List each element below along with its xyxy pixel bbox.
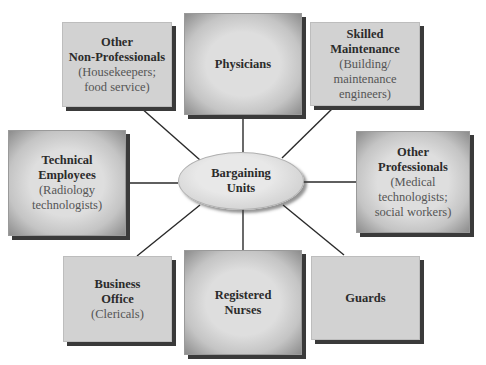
unit-box-other-non-professionals: Other Non-Professionals (Housekeepers; f… xyxy=(62,22,172,107)
unit-box-registered-nurses: Registered Nurses xyxy=(184,250,302,355)
unit-box-other-professionals: Other Professionals (Medical technologis… xyxy=(356,131,470,233)
unit-subtitle: food service) xyxy=(84,80,150,95)
unit-title: Registered xyxy=(215,288,272,303)
unit-title: Nurses xyxy=(225,303,262,318)
unit-title: Physicians xyxy=(215,57,271,72)
center-label-line2: Units xyxy=(227,181,255,196)
unit-subtitle: (Housekeepers; xyxy=(78,65,156,80)
unit-title: Employees xyxy=(38,168,96,183)
unit-subtitle: (Clericals) xyxy=(91,307,144,322)
unit-subtitle: engineers) xyxy=(339,87,391,102)
unit-box-guards: Guards xyxy=(311,256,420,340)
bargaining-units-center-oval: Bargaining Units xyxy=(178,152,304,210)
unit-box-technical-employees: Technical Employees (Radiology technolog… xyxy=(8,130,126,236)
unit-title: Professionals xyxy=(378,160,448,175)
unit-box-business-office: Business Office (Clericals) xyxy=(63,256,172,342)
unit-title: Technical xyxy=(42,153,93,168)
unit-subtitle: technologists) xyxy=(32,198,102,213)
unit-subtitle: maintenance xyxy=(333,72,396,87)
unit-subtitle: technologists; xyxy=(378,190,447,205)
unit-box-physicians: Physicians xyxy=(184,13,302,115)
center-label-line1: Bargaining xyxy=(211,166,271,181)
unit-title: Other xyxy=(397,145,429,160)
unit-title: Other xyxy=(101,35,133,50)
unit-title: Maintenance xyxy=(330,42,399,57)
unit-box-skilled-maintenance: Skilled Maintenance (Building/ maintenan… xyxy=(310,22,420,106)
unit-title: Office xyxy=(101,292,134,307)
unit-title: Guards xyxy=(345,291,385,306)
unit-title: Non-Professionals xyxy=(69,50,165,65)
unit-title: Skilled xyxy=(347,27,384,42)
unit-subtitle: (Radiology xyxy=(39,183,95,198)
bargaining-units-diagram: Other Non-Professionals (Housekeepers; f… xyxy=(0,0,486,365)
connector-guards xyxy=(283,205,344,255)
unit-subtitle: (Building/ xyxy=(339,57,390,72)
unit-title: Business xyxy=(95,277,141,292)
unit-subtitle: (Medical xyxy=(390,175,435,190)
connector-business-office xyxy=(137,205,200,256)
unit-subtitle: social workers) xyxy=(375,205,452,220)
